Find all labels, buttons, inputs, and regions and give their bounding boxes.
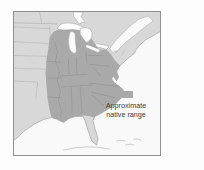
legend-swatch-color (119, 91, 133, 98)
legend-swatch (119, 91, 133, 98)
native-range-map (14, 12, 160, 155)
legend-label-line1: Approximate (96, 101, 156, 110)
map-frame (13, 11, 161, 156)
legend: Approximate native range (96, 101, 156, 119)
legend-label-line2: native range (96, 110, 156, 119)
